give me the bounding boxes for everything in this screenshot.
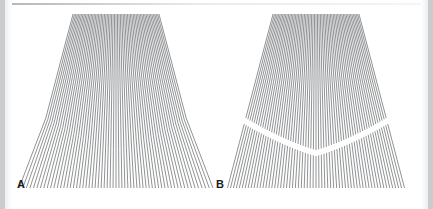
fan-line-lower-segment [131,145,133,188]
right-border-strip [428,0,433,209]
fan-line-upper-segment [326,14,334,144]
fan-line-lower-segment [163,131,175,188]
fan-line-lower-segment [134,144,137,188]
fan-line-lower-segment [289,148,292,188]
fan-line-lower-segment [327,153,328,188]
fan-line-lower-segment [339,148,342,188]
fan-line-lower-segment [292,149,295,188]
fan-line-lower-segment [329,152,331,188]
right-border-fade [421,0,428,209]
fan-line-lower-segment [121,149,122,188]
fan-line-upper-segment [352,14,376,124]
fan-line-upper-segment [256,14,280,124]
fan-line-upper-segment [113,14,114,149]
fan-line-lower-segment [101,146,103,188]
fan-line-lower-segment [80,139,86,188]
fan-line-lower-segment [307,154,308,188]
fan-line-lower-segment [349,144,354,188]
fan-line-upper-segment [81,14,96,137]
fan-line-lower-segment [334,150,336,188]
fan-line-upper-segment [117,14,118,149]
fan-line-lower-segment [158,133,168,188]
fan-line-lower-segment [352,143,358,188]
fan-line-lower-segment [83,140,88,188]
fan-line-lower-segment [110,149,111,188]
fan-line-lower-segment [304,153,305,188]
fan-line-lower-segment [321,155,322,188]
fan-line-lower-segment [126,147,128,188]
fan-line-upper-segment [126,14,134,144]
fan-line-upper-segment [56,14,80,124]
panel-b-line-fan [214,0,419,209]
fan-line-lower-segment [310,155,311,188]
fan-line-upper-segment [136,14,151,137]
fan-line-lower-segment [368,135,378,188]
fan-line-lower-segment [129,146,131,188]
fan-line-upper-segment [336,14,351,137]
panel-b [214,0,419,209]
fan-line-lower-segment [33,123,54,188]
fan-line-lower-segment [57,131,69,188]
panel-a [14,0,219,209]
fan-line-lower-segment [146,139,152,188]
fan-line-lower-segment [278,144,283,188]
panel-a-line-fan [14,0,219,209]
fan-line-lower-segment [354,142,360,188]
fan-line-lower-segment [275,143,281,188]
fan-line-lower-segment [272,142,278,188]
fan-line-lower-segment [254,135,264,188]
left-border-fade [5,0,12,209]
fan-line-upper-segment [298,14,306,144]
fan-line-upper-segment [98,14,106,144]
fan-line-lower-segment [301,152,303,188]
fan-line-lower-segment [107,148,108,188]
fan-line-lower-segment [298,151,300,188]
fan-line-lower-segment [332,151,334,188]
fan-line-lower-segment [64,133,74,188]
panel-label-a: A [17,179,25,190]
fan-line-lower-segment [295,150,297,188]
fan-line-lower-segment [144,140,149,188]
fan-line-upper-segment [281,14,296,137]
fan-line-lower-segment [95,144,98,188]
fan-line-lower-segment [98,145,100,188]
fan-line-lower-segment [124,148,125,188]
fan-line-upper-segment [317,14,318,149]
fan-line-lower-segment [178,123,199,188]
fan-line-lower-segment [104,147,106,188]
figure-root: A B [0,0,433,209]
fan-line-lower-segment [337,149,340,188]
fan-line-lower-segment [324,154,325,188]
fan-line-upper-segment [313,14,314,149]
panel-label-b: B [216,179,224,190]
fan-line-upper-segment [152,14,176,124]
